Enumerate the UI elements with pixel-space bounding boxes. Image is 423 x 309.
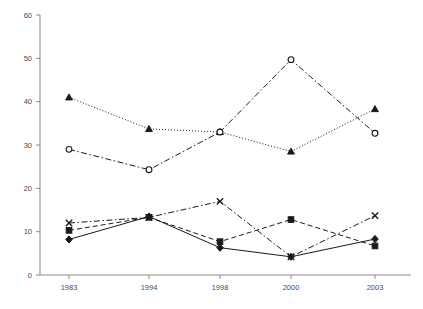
y-axis-tick-label: 20 xyxy=(24,184,32,193)
y-axis-tick-label: 50 xyxy=(24,54,32,63)
series-square-series xyxy=(66,215,378,249)
series-line-triangle-series xyxy=(69,97,375,151)
series-line-diamond-series xyxy=(69,217,375,257)
series-triangle-series xyxy=(66,94,379,154)
series-circle-series xyxy=(66,57,378,173)
circle-marker xyxy=(288,57,294,63)
y-axis-tick-label: 40 xyxy=(24,97,32,106)
series-line-circle-series xyxy=(69,60,375,170)
x-axis-tick-label: 1998 xyxy=(212,283,229,292)
x-axis: 19831994199820002003 xyxy=(40,275,411,292)
triangle-marker xyxy=(372,106,379,112)
y-axis-tick-label: 30 xyxy=(24,141,32,150)
circle-marker xyxy=(372,130,378,136)
circle-marker xyxy=(217,129,223,135)
plot-area: 0102030405060 19831994199820002003 xyxy=(0,0,423,309)
square-marker xyxy=(288,217,294,223)
y-axis-tick-label: 0 xyxy=(28,271,32,280)
diamond-marker xyxy=(217,244,224,251)
y-axis-tick-label: 60 xyxy=(24,11,32,20)
x-axis-tick-label: 2000 xyxy=(283,283,300,292)
square-marker xyxy=(66,228,72,234)
diamond-marker xyxy=(66,236,73,243)
line-chart: 0102030405060 19831994199820002003 xyxy=(0,0,423,309)
diamond-marker xyxy=(372,235,379,242)
circle-marker xyxy=(146,167,152,173)
series-cross-series xyxy=(66,198,378,260)
x-marker xyxy=(372,212,378,218)
x-axis-tick-label: 1983 xyxy=(61,283,78,292)
triangle-marker xyxy=(146,126,153,132)
y-axis-tick-label: 10 xyxy=(24,227,32,236)
square-marker xyxy=(372,243,378,249)
x-axis-tick-label: 2003 xyxy=(367,283,384,292)
x-axis-tick-label: 1994 xyxy=(141,283,158,292)
circle-marker xyxy=(66,146,72,152)
triangle-marker xyxy=(66,94,73,100)
y-axis: 0102030405060 xyxy=(24,11,40,280)
series-layer xyxy=(66,57,379,261)
